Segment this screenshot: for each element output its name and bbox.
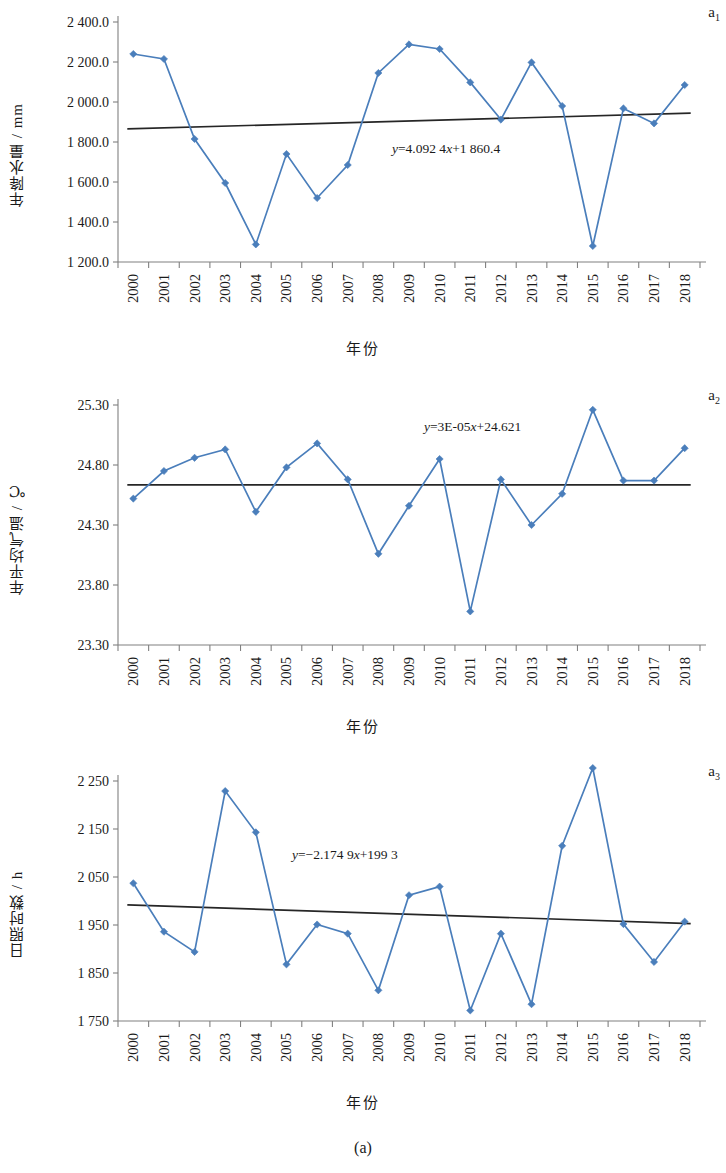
x-tick-label: 2015 [585,274,601,303]
x-tick-label: 2012 [493,274,509,303]
series-line-年平均气温 [133,410,684,612]
data-point-marker [375,987,382,994]
data-point-marker [344,930,351,937]
x-tick-label: 2016 [615,657,631,686]
x-tick-label: 2018 [677,274,693,303]
x-tick-label: 2002 [187,1033,203,1062]
x-tick-label: 2016 [615,274,631,303]
x-tick-label: 2003 [217,274,233,303]
chart-panel-sunshine: a3 日照时数 / h 1 7501 8501 9502 0502 1502 2… [0,759,726,1135]
x-tick-label: 2001 [156,1033,172,1062]
data-point-marker [589,764,596,771]
x-tick-label: 2014 [554,273,570,303]
data-point-marker [620,105,627,112]
x-tick-label: 2007 [340,657,356,686]
trendline-equation-temperature: y=3E-05x+24.621 [424,419,521,435]
y-tick-label: 24.80 [78,458,110,473]
data-point-marker [528,1001,535,1008]
x-tick-label: 2006 [309,274,325,303]
x-tick-label: 2013 [524,274,540,303]
x-tick-label: 2017 [646,657,662,686]
x-tick-label: 2013 [524,657,540,686]
data-point-marker [252,241,259,248]
data-point-marker [130,50,137,57]
x-tick-label: 2008 [370,657,386,686]
x-tick-label: 2014 [554,656,570,686]
series-line-日照时数 [133,768,684,1010]
y-tick-label: 2 400.0 [67,15,109,30]
figure-container: a1 年降水量 / mm 1 200.01 400.01 600.01 800.… [0,0,726,1173]
x-tick-label: 2002 [187,657,203,686]
x-tick-label: 2004 [248,656,264,686]
data-point-marker [405,892,412,899]
x-tick-label: 2018 [677,657,693,686]
x-tick-label: 2015 [585,657,601,686]
chart-svg-precipitation: 1 200.01 400.01 600.01 800.02 000.02 200… [0,0,726,320]
x-tick-label: 2012 [493,1033,509,1062]
x-tick-label: 2017 [646,1033,662,1062]
data-point-marker [467,1007,474,1014]
x-tick-label: 2012 [493,657,509,686]
x-axis-title-sunshine: 年份 [0,1091,726,1112]
x-axis-title-temperature: 年份 [0,715,726,736]
x-tick-label: 2002 [187,274,203,303]
chart-panel-precipitation: a1 年降水量 / mm 1 200.01 400.01 600.01 800.… [0,0,726,383]
x-tick-label: 2000 [125,1033,141,1062]
y-axis-title-precipitation: 年降水量 / mm [6,55,27,255]
x-tick-label: 2009 [401,1033,417,1062]
x-axis-title-precipitation: 年份 [0,337,726,358]
x-tick-label: 2007 [340,1033,356,1062]
x-tick-label: 2009 [401,657,417,686]
y-tick-label: 1 950 [78,918,110,933]
x-tick-label: 2011 [462,1033,478,1061]
y-axis-title-sunshine: 日照时数 / h [6,819,27,1009]
data-point-marker [191,454,198,461]
y-tick-label: 2 200.0 [67,55,109,70]
x-tick-label: 2008 [370,1033,386,1062]
x-tick-label: 2010 [432,657,448,686]
data-point-marker [559,842,566,849]
data-point-marker [620,477,627,484]
y-tick-label: 1 750 [78,1014,110,1029]
trendline-equation-sunshine: y=−2.174 9x+199 3 [292,847,398,863]
x-tick-label: 2005 [278,1033,294,1062]
y-tick-label: 2 000.0 [67,95,109,110]
x-tick-label: 2003 [217,1033,233,1062]
y-tick-label: 23.30 [78,638,110,653]
x-tick-label: 2000 [125,657,141,686]
x-tick-label: 2004 [248,1032,264,1062]
x-tick-label: 2017 [646,274,662,303]
data-point-marker [589,406,596,413]
data-point-marker [222,446,229,453]
panel-tag-a1: a1 [708,4,720,23]
y-tick-label: 1 800.0 [67,135,109,150]
x-tick-label: 2001 [156,657,172,686]
y-tick-label: 1 600.0 [67,175,109,190]
x-tick-label: 2007 [340,274,356,303]
y-tick-label: 24.30 [78,518,110,533]
x-tick-label: 2011 [462,657,478,685]
x-tick-label: 2004 [248,273,264,303]
chart-panel-temperature: a2 年平均气温 / ℃ 23.3023.8024.3024.8025.3020… [0,383,726,759]
chart-svg-temperature: 23.3023.8024.3024.8025.30200020012002200… [0,383,726,698]
x-tick-label: 2005 [278,274,294,303]
x-tick-label: 2018 [677,1033,693,1062]
x-tick-label: 2014 [554,1032,570,1062]
y-tick-label: 2 250 [78,774,110,789]
x-tick-label: 2006 [309,1033,325,1062]
y-tick-label: 1 850 [78,966,110,981]
figure-caption: (a) [0,1139,726,1157]
x-tick-label: 2010 [432,274,448,303]
y-axis-title-temperature: 年平均气温 / ℃ [6,433,27,643]
x-tick-label: 2005 [278,657,294,686]
x-tick-label: 2016 [615,1033,631,1062]
x-tick-label: 2000 [125,274,141,303]
x-tick-label: 2015 [585,1033,601,1062]
y-tick-label: 1 400.0 [67,215,109,230]
y-tick-label: 23.80 [78,578,110,593]
x-tick-label: 2009 [401,274,417,303]
data-point-marker [589,242,596,249]
data-point-marker [467,608,474,615]
x-tick-label: 2011 [462,274,478,302]
y-tick-label: 2 150 [78,822,110,837]
